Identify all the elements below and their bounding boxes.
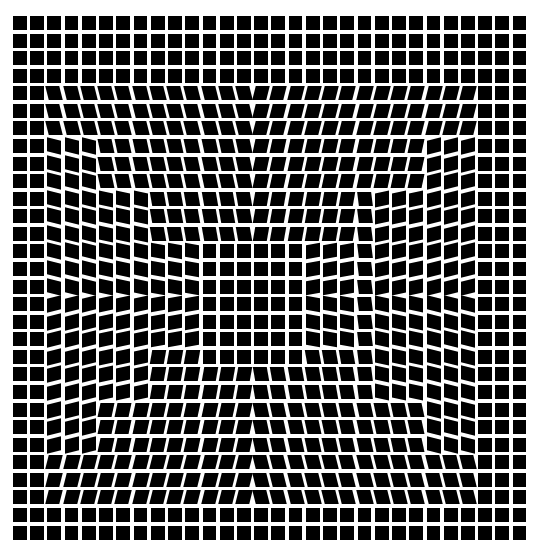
grid-cell (306, 296, 320, 312)
grid-cell (201, 438, 218, 452)
grid-cell (47, 348, 61, 365)
grid-cell (115, 104, 132, 118)
grid-cell (13, 473, 27, 487)
grid-cell (254, 34, 268, 48)
grid-cell (375, 348, 389, 365)
grid-cell (30, 34, 44, 48)
grid-cell (201, 227, 217, 241)
grid-cell (495, 455, 509, 469)
grid-cell (478, 332, 492, 346)
grid-cell (13, 209, 27, 223)
grid-cell (409, 261, 423, 278)
grid-cell (339, 490, 356, 504)
grid-cell (356, 455, 373, 469)
grid-cell (357, 280, 373, 294)
grid-cell (82, 155, 96, 172)
grid-cell (65, 436, 79, 453)
grid-cell (392, 261, 406, 278)
grid-cell (97, 86, 114, 100)
grid-cell (30, 139, 44, 153)
grid-cell (13, 244, 27, 258)
grid-cell (409, 313, 423, 330)
grid-cell (115, 157, 132, 171)
grid-cell (513, 16, 527, 30)
grid-cell (339, 86, 356, 100)
grid-cell (13, 34, 27, 48)
grid-cell (82, 313, 96, 330)
grid-cell (65, 51, 79, 65)
grid-cell (13, 86, 27, 100)
grid-cell (306, 508, 320, 522)
grid-cell (513, 490, 527, 504)
grid-cell (461, 295, 475, 312)
grid-cell (373, 104, 390, 118)
grid-cell (478, 227, 492, 241)
grid-cell (220, 332, 234, 346)
grid-cell (478, 16, 492, 30)
grid-cell (461, 436, 475, 453)
grid-cell (150, 209, 166, 223)
grid-cell (513, 332, 527, 346)
grid-cell (375, 225, 389, 242)
grid-cell (513, 526, 527, 540)
grid-cell (82, 190, 96, 207)
grid-cell (97, 490, 114, 504)
grid-cell (47, 436, 61, 453)
grid-cell (65, 190, 79, 207)
grid-cell (478, 174, 492, 188)
grid-cell (168, 243, 182, 259)
grid-cell (375, 190, 389, 207)
grid-cell (149, 473, 166, 487)
grid-cell (478, 455, 492, 469)
grid-cell (287, 209, 303, 223)
grid-cell (425, 121, 442, 135)
grid-cell (409, 225, 423, 242)
grid-cell (427, 331, 441, 348)
grid-cell (461, 383, 475, 400)
grid-cell (168, 16, 182, 30)
grid-cell (322, 192, 338, 206)
grid-cell (149, 403, 166, 417)
grid-cell (271, 350, 285, 364)
grid-cell (427, 190, 441, 207)
grid-cell (235, 86, 252, 100)
grid-cell (134, 34, 148, 48)
grid-cell (46, 455, 63, 469)
grid-cell (82, 401, 96, 418)
grid-cell (270, 104, 287, 118)
grid-cell (270, 157, 287, 171)
grid-cell (65, 313, 79, 330)
grid-cell (461, 69, 475, 83)
grid-cell (392, 296, 406, 313)
grid-cell (356, 86, 373, 100)
grid-cell (408, 104, 425, 118)
grid-cell (116, 526, 130, 540)
grid-cell (427, 295, 441, 312)
grid-cell (513, 297, 527, 311)
grid-cell (513, 139, 527, 153)
grid-cell (203, 280, 217, 294)
grid-cell (132, 455, 149, 469)
grid-cell (115, 455, 132, 469)
grid-cell (168, 296, 182, 312)
grid-cell (168, 69, 182, 83)
grid-cell (391, 139, 408, 153)
grid-cell (356, 438, 373, 452)
grid-cell (115, 139, 132, 153)
grid-cell (459, 104, 476, 118)
grid-cell (116, 348, 130, 365)
grid-cell (513, 367, 527, 381)
grid-cell (167, 438, 184, 452)
grid-cell (30, 403, 44, 417)
grid-cell (254, 244, 268, 258)
grid-cell (13, 438, 27, 452)
grid-cell (495, 16, 509, 30)
grid-cell (427, 401, 441, 418)
grid-cell (237, 280, 251, 294)
grid-cell (339, 403, 356, 417)
grid-cell (99, 208, 113, 225)
grid-cell (323, 69, 337, 83)
grid-cell (391, 174, 408, 188)
grid-cell (271, 332, 285, 346)
grid-cell (373, 121, 390, 135)
